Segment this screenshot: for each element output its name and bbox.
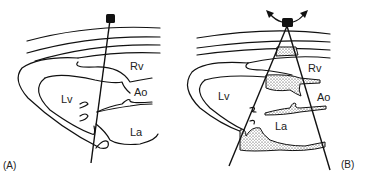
chest-wall-layer (197, 31, 330, 38)
panel-caption-a: (A) (3, 160, 16, 171)
mitral-leaflet (80, 102, 88, 108)
echocardiography-diagram: Rv Ao Lv La (A) (0, 0, 365, 182)
label-lv: Lv (61, 93, 73, 105)
transducer-icon (282, 18, 293, 27)
mitral-leaflet (250, 120, 255, 124)
label-ao: Ao (134, 86, 147, 98)
panel-a: Rv Ao Lv La (A) (3, 14, 160, 171)
chest-wall-layer (27, 27, 160, 41)
transducer-icon (106, 14, 115, 23)
label-lv: Lv (218, 90, 230, 102)
label-rv: Rv (130, 60, 144, 72)
lv-wall (45, 75, 130, 93)
panel-caption-b: (B) (341, 159, 354, 170)
chest-wall-layer (78, 53, 160, 58)
septum-echo (266, 75, 320, 96)
aortic-wall-echo (265, 103, 326, 115)
label-rv: Rv (308, 62, 322, 74)
mitral-leaflet (80, 114, 88, 121)
chest-wall-layer (197, 48, 330, 55)
lv-wall (205, 76, 266, 80)
label-la: La (275, 120, 288, 132)
chest-wall-layer (197, 41, 330, 48)
panel-b: Rv Ao Lv La (B) (188, 10, 355, 170)
label-la: La (130, 126, 143, 138)
lv-posterior (39, 78, 95, 134)
label-ao: Ao (317, 91, 330, 103)
